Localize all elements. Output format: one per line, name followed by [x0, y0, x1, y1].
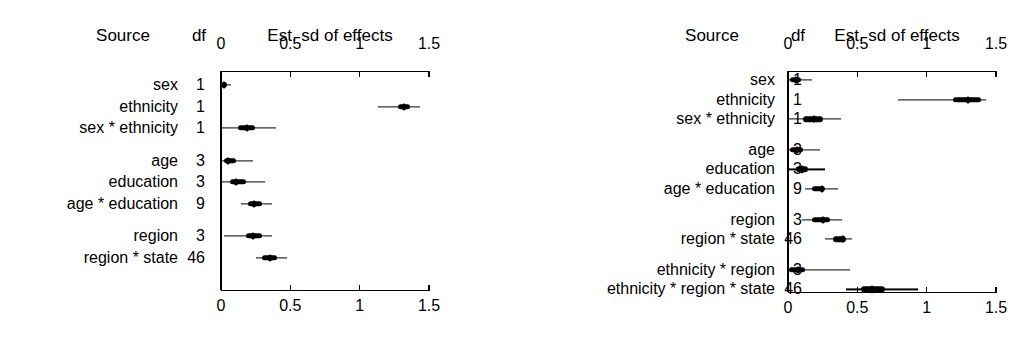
x-axis-tick	[359, 285, 360, 290]
df-value: 1	[145, 99, 205, 115]
df-value: 9	[145, 196, 205, 212]
median-marker	[966, 96, 970, 103]
source-label: education	[475, 161, 775, 177]
median-marker	[821, 216, 825, 223]
df-value: 3	[145, 174, 205, 190]
median-marker	[402, 103, 406, 110]
x-axis-tick-label: 0	[784, 36, 793, 52]
source-label: region * state	[475, 231, 775, 247]
df-value: 3	[742, 161, 802, 177]
df-value: 3	[145, 228, 205, 244]
df-value: 1	[742, 111, 802, 127]
x-axis-tick-label: 1	[355, 298, 364, 314]
x-axis-tick	[926, 287, 927, 292]
df-value: 1	[145, 77, 205, 93]
source-label: ethnicity * region	[475, 262, 775, 278]
df-value: 3	[742, 212, 802, 228]
x-axis-tick-label: 1.5	[985, 36, 1007, 52]
median-marker	[226, 157, 230, 164]
x-axis-tick	[926, 72, 927, 77]
source-label: age * education	[475, 181, 775, 197]
source-label: ethnicity	[475, 92, 775, 108]
median-marker	[222, 81, 226, 88]
df-value: 1	[742, 72, 802, 88]
df-value: 9	[742, 181, 802, 197]
x-axis-tick-label: 0	[217, 298, 226, 314]
x-axis-tick	[428, 72, 429, 77]
source-label: sex * ethnicity	[475, 111, 775, 127]
header-est-sd-of-effects: Est. sd of effects	[220, 27, 440, 44]
x-axis-bottom	[221, 290, 430, 291]
x-axis-tick	[290, 285, 291, 290]
source-label: age	[475, 142, 775, 158]
x-axis-tick	[995, 287, 996, 292]
df-value: 1	[742, 92, 802, 108]
median-marker	[252, 200, 256, 207]
median-marker	[812, 116, 816, 123]
median-marker	[820, 185, 824, 192]
x-axis-tick-label: 1.5	[418, 298, 440, 314]
x-axis-top	[221, 71, 430, 72]
x-axis-tick	[428, 285, 429, 290]
df-value: 3	[742, 262, 802, 278]
x-axis-tick-label: 0.5	[279, 36, 301, 52]
x-axis-tick-label: 0	[784, 300, 793, 316]
source-label: sex	[475, 72, 775, 88]
x-axis-tick	[857, 72, 858, 77]
median-marker	[245, 124, 249, 131]
x-axis-tick-label: 1	[922, 36, 931, 52]
x-axis-tick	[995, 72, 996, 77]
source-label: region	[475, 212, 775, 228]
interval-inner	[230, 179, 246, 184]
panel-left: Source df Est. sd of effects 00.511.500.…	[0, 0, 500, 342]
df-value: 3	[742, 142, 802, 158]
median-marker	[268, 254, 272, 261]
df-value: 46	[742, 231, 802, 247]
anova-effect-size-figure: Source df Est. sd of effects 00.511.500.…	[0, 0, 1029, 342]
x-axis-tick-label: 0	[217, 36, 226, 52]
x-axis-tick	[359, 72, 360, 77]
x-axis-tick-label: 0.5	[279, 298, 301, 314]
x-axis-bottom	[788, 292, 997, 293]
median-marker	[234, 178, 238, 185]
x-axis-tick-label: 1.5	[418, 36, 440, 52]
df-value: 3	[145, 153, 205, 169]
x-axis-top	[788, 71, 997, 72]
x-axis-tick	[290, 72, 291, 77]
df-value: 46	[742, 281, 802, 297]
header-est-sd-of-effects: Est. sd of effects	[787, 27, 1007, 44]
panel-right: Source df Est. sd of effects 00.511.500.…	[515, 0, 1029, 342]
df-value: 1	[145, 120, 205, 136]
x-axis-tick-label: 0.5	[846, 36, 868, 52]
source-label: ethnicity * region * state	[475, 281, 775, 297]
x-axis-tick-label: 0.5	[846, 300, 868, 316]
df-value: 46	[145, 250, 205, 266]
median-marker	[841, 236, 845, 243]
x-axis-tick-label: 1	[355, 36, 364, 52]
x-axis-tick-label: 1	[922, 300, 931, 316]
x-axis-tick-label: 1.5	[985, 300, 1007, 316]
median-marker	[251, 232, 255, 239]
